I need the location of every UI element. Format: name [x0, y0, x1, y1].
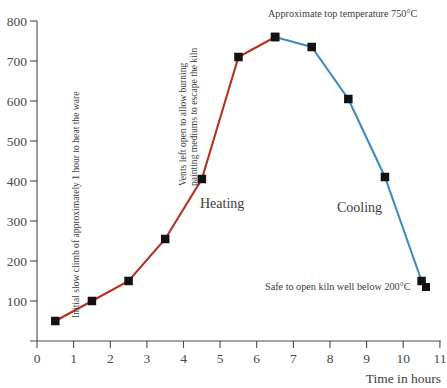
- kiln-firing-chart: 800 700 600 500 400 300 200 100: [0, 0, 447, 388]
- x-tick-label: 9: [363, 351, 370, 366]
- data-point-marker: [124, 277, 132, 286]
- data-point-marker: [234, 53, 243, 62]
- x-tick-label: 0: [34, 351, 41, 366]
- y-tick-label: 700: [7, 54, 28, 69]
- annotation-initial-climb: Initial slow climb of approximately 1 ho…: [70, 92, 81, 318]
- y-tick-label: 600: [7, 94, 28, 109]
- annotation-top-temperature: Approximate top temperature 750°C: [268, 8, 417, 19]
- data-point-marker: [381, 173, 390, 182]
- data-point-marker: [161, 235, 170, 244]
- data-point-marker: [344, 95, 353, 104]
- y-tick-label: 200: [7, 254, 28, 269]
- y-tick-label: 400: [7, 174, 28, 189]
- annotation-marker-icon: [422, 283, 430, 291]
- y-tick-marks: [30, 21, 37, 301]
- x-tick-label: 1: [70, 351, 77, 366]
- x-tick-label: 3: [144, 351, 151, 366]
- y-tick-label: 300: [7, 214, 28, 229]
- x-tick-label: 8: [327, 351, 334, 366]
- data-point-marker: [271, 33, 280, 42]
- cooling-curve: [275, 37, 422, 281]
- x-axis-title: Time in hours: [366, 371, 441, 386]
- x-tick-label: 10: [396, 351, 410, 366]
- y-tick-label: 800: [7, 14, 28, 29]
- chart-canvas: 800 700 600 500 400 300 200 100: [0, 0, 447, 388]
- annotation-vents-line-1: Vents left open to allow burning: [177, 62, 188, 186]
- data-point-marker: [307, 43, 316, 52]
- x-tick-label: 2: [107, 351, 114, 366]
- x-tick-labels: 0 1 2 3 4 5 6 7 8 9 10 11: [34, 351, 447, 366]
- phase-label-heating: Heating: [200, 196, 244, 211]
- x-tick-marks: [37, 341, 440, 348]
- x-tick-label: 11: [433, 351, 446, 366]
- data-point-marker: [88, 297, 97, 306]
- y-tick-label: 100: [7, 294, 28, 309]
- x-tick-label: 4: [180, 351, 187, 366]
- data-point-marker: [51, 317, 60, 326]
- x-tick-label: 7: [290, 351, 297, 366]
- x-tick-label: 6: [253, 351, 260, 366]
- phase-label-cooling: Cooling: [337, 200, 382, 215]
- y-tick-labels: 800 700 600 500 400 300 200 100: [7, 14, 28, 309]
- heating-curve: [55, 37, 275, 321]
- x-tick-label: 5: [217, 351, 224, 366]
- annotation-vents-line-2: painting mediums to escape the kiln: [188, 48, 199, 186]
- y-tick-label: 500: [7, 134, 28, 149]
- annotation-safe-to-open: Safe to open kiln well below 200°C: [265, 281, 411, 292]
